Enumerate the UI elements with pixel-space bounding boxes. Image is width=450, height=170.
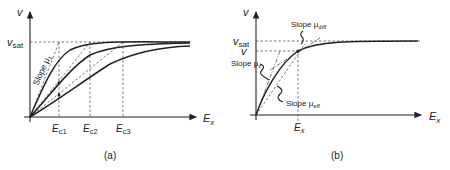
slope-mu-diff-label: Slope μdiff [291,20,327,30]
y-axis-label-a: v [17,6,24,18]
leader-mu-eff [277,86,283,102]
tick-label-ec1: Ec1 [52,123,67,136]
slope-line-3 [30,42,123,117]
leader-mu-z [260,64,269,80]
panel-b: v vsat v Slope μdiff Slope μz Slope μeff… [231,6,441,161]
x-axis-label-a: Ex [203,112,215,127]
slope-mu-z-label: Slope μz [231,59,261,69]
point-2 [58,94,61,97]
operating-point [296,49,299,52]
vsat-label-a: vsat [7,36,24,50]
x-axis-label-b: Ex [429,110,441,125]
y-axis-label-b: v [243,6,250,18]
panel-a: Slope μ1 v vsat Ex Ec1 Ec2 Ec3 (a) [7,6,215,161]
point-1 [58,82,61,85]
curve-1 [30,42,190,117]
caption-b: (b) [331,150,343,161]
tick-label-ec3: Ec3 [116,123,131,136]
velocity-field-diagram: Slope μ1 v vsat Ex Ec1 Ec2 Ec3 (a) [0,0,450,170]
caption-a: (a) [104,150,116,161]
curve-3 [30,46,190,117]
tick-label-ex: Ex [294,122,305,135]
curve-2 [30,43,190,117]
slope-mu-eff-label: Slope μeff [286,99,320,109]
leader-mu-diff [301,31,304,44]
curve-b [256,41,418,115]
slope-mu1-label: Slope μ1 [31,53,54,88]
tick-label-ec2: Ec2 [83,123,98,136]
